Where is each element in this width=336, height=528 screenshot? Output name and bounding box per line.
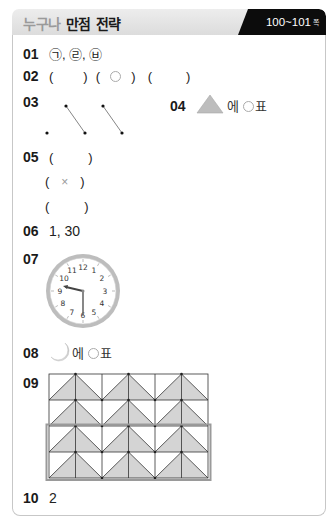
answer-01: 01 ㉠, ㉣, ㉥ [23, 44, 102, 63]
question-number: 01 [23, 46, 45, 62]
question-number: 09 [23, 375, 45, 391]
svg-text:4: 4 [100, 299, 105, 308]
mark-label: 표 [255, 99, 267, 114]
svg-text:2: 2 [100, 274, 105, 283]
section-title: 누구나 만점 전략 [23, 13, 121, 33]
answer-text: ㉠, ㉣, ㉥ [49, 47, 102, 62]
title-muted: 누구나 [23, 16, 61, 32]
triangle-pattern-grid [44, 372, 212, 486]
question-number: 07 [23, 251, 45, 267]
paren-1: () [49, 150, 93, 165]
answer-05-row-2: (×) [45, 173, 85, 189]
dot-matching-diagram [40, 98, 140, 144]
answer-04: 04 에 표 [170, 94, 267, 115]
svg-text:5: 5 [92, 308, 97, 317]
question-number: 06 [23, 223, 45, 239]
question-number: 05 [23, 149, 45, 165]
question-number: 02 [23, 68, 45, 84]
paren-2: () [96, 69, 144, 84]
crescent-moon-icon [49, 342, 71, 362]
question-number: 08 [23, 345, 45, 361]
section-header: 누구나 만점 전략 100~101 쪽 [12, 9, 326, 35]
triangle-icon [196, 94, 224, 114]
x-mark-icon: × [61, 175, 68, 189]
mark-label: 표 [100, 346, 112, 361]
circle-mark-icon [88, 348, 99, 359]
answer-05: 05 () [23, 149, 93, 165]
svg-text:3: 3 [103, 287, 108, 296]
paren-3: () [45, 199, 89, 214]
paren-1: () [49, 69, 92, 84]
answer-text: 1, 30 [49, 223, 80, 239]
page-unit: 쪽 [313, 17, 319, 27]
answer-06: 06 1, 30 [23, 223, 80, 239]
answer-10: 10 2 [23, 490, 57, 506]
circle-mark-icon [110, 71, 121, 82]
svg-text:12: 12 [78, 263, 88, 272]
clock-icon: 12 1 2 3 4 5 6 7 8 9 10 11 [44, 252, 122, 334]
suffix-text: 에 [72, 346, 84, 361]
page-range: 100~101 [266, 16, 311, 28]
question-number: 10 [23, 490, 45, 506]
suffix-text: 에 [227, 99, 239, 114]
answer-text: 2 [49, 490, 57, 506]
answer-09: 09 [23, 375, 45, 391]
svg-text:1: 1 [92, 266, 97, 275]
title-strong: 만점 전략 [66, 16, 121, 32]
svg-text:7: 7 [70, 308, 75, 317]
paren-3: () [148, 69, 191, 84]
circle-mark-icon [243, 101, 254, 112]
page-range-badge: 100~101 쪽 [238, 9, 326, 35]
paren-2: (×) [45, 174, 85, 189]
answer-05-row-3: () [45, 198, 89, 214]
svg-text:9: 9 [58, 287, 63, 296]
answer-02: 02 () () () [23, 68, 190, 84]
answer-07: 07 [23, 251, 45, 267]
question-number: 04 [170, 98, 192, 114]
svg-text:11: 11 [67, 266, 77, 275]
svg-text:8: 8 [61, 299, 66, 308]
answer-08: 08 에 표 [23, 342, 112, 362]
svg-text:10: 10 [59, 274, 69, 283]
